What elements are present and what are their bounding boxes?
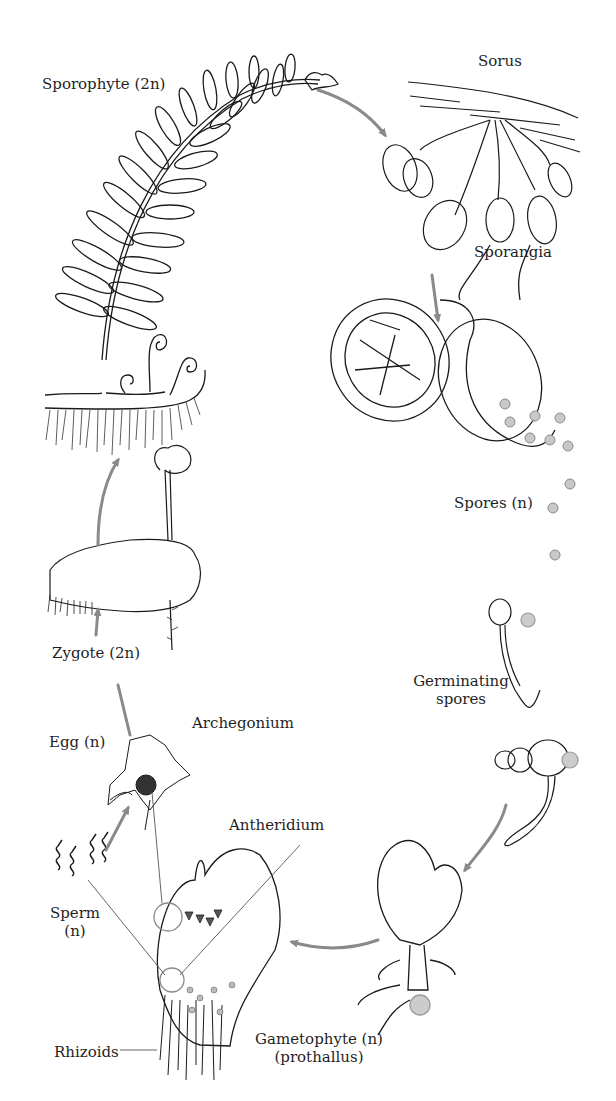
label-antheridium: Antheridium (229, 816, 324, 834)
arrow-germinating-to-young-gametophyte (465, 805, 506, 870)
arrow-young-to-mature-gametophyte (292, 940, 378, 948)
young-gametophyte (358, 841, 462, 1035)
sporophyte-frond (45, 54, 338, 409)
arrow-young-sporophyte-to-mature (98, 460, 118, 545)
germinating-spore-2 (495, 740, 578, 846)
label-gametophyte-line1: Gametophyte (n) (240, 1030, 398, 1048)
sorus-illustration (377, 82, 580, 258)
label-spores: Spores (n) (454, 494, 533, 512)
label-egg: Egg (n) (49, 733, 105, 751)
young-sporophyte-on-gametophyte (50, 445, 200, 650)
label-sporophyte: Sporophyte (2n) (42, 75, 165, 93)
arrow-sorus-to-sporangia (432, 275, 438, 320)
young-sporophyte-roots (48, 595, 178, 640)
sporophyte-roots (46, 398, 200, 455)
archegonium-illustration (108, 735, 190, 830)
arrow-sperm-to-archegonium (106, 808, 128, 850)
label-sperm-line2: (n) (44, 922, 106, 940)
label-germinating-line1: Germinating (402, 672, 520, 690)
label-germinating-line2: spores (402, 690, 520, 708)
label-zygote: Zygote (2n) (52, 644, 140, 662)
free-sperm (56, 832, 108, 876)
label-germinating-spores: Germinating spores (402, 672, 520, 708)
label-archegonium: Archegonium (192, 714, 294, 732)
antheridia-cluster (185, 910, 222, 926)
label-sporangia: Sporangia (474, 243, 552, 261)
label-sorus: Sorus (478, 52, 522, 70)
arrow-sporophyte-to-sorus (318, 90, 385, 135)
fern-life-cycle-diagram: Sporophyte (2n) Sorus Sporangia Spores (… (0, 0, 616, 1101)
label-sperm: Sperm (n) (44, 904, 106, 940)
gametophyte-dots (187, 982, 235, 1015)
arrow-zygote-to-young-sporophyte (96, 610, 98, 635)
label-rhizoids: Rhizoids (54, 1043, 119, 1061)
spores (500, 399, 575, 560)
label-sperm-line1: Sperm (44, 904, 106, 922)
arrow-archegonium-to-zygote (118, 685, 130, 735)
label-gametophyte-line2: (prothallus) (240, 1048, 398, 1066)
gametophyte-prothallus (154, 849, 280, 1046)
label-gametophyte: Gametophyte (n) (prothallus) (240, 1030, 398, 1066)
